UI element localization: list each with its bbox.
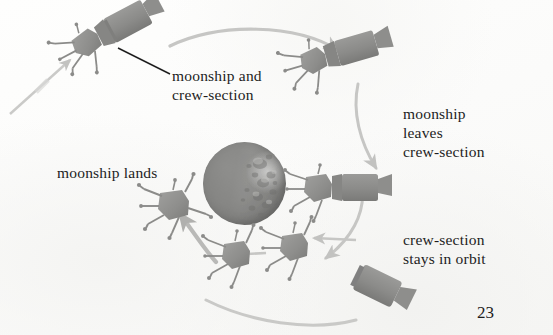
- spacecraft-moonship-descending-lower: [201, 223, 256, 289]
- label-moonship-and-crew-section: moonship and crew-section: [172, 66, 262, 104]
- spacecraft-moonship-landed: [137, 172, 213, 240]
- book-page: moonship and crew-section moonship leave…: [0, 0, 553, 335]
- spacecraft-moonship-separating-from-crew-section: [274, 16, 400, 102]
- spacecraft-crew-section-in-orbit-alone: [349, 262, 417, 314]
- label-moonship-lands: moonship lands: [57, 163, 158, 182]
- page-number: 23: [477, 303, 494, 323]
- label-moonship-leaves-crew-section: moonship leaves crew-section: [403, 104, 485, 161]
- arrow-orbit-right-upper: [356, 84, 376, 168]
- spacecraft-moonship-beside-crew-section: [283, 163, 392, 223]
- arrow-orbit-top: [170, 29, 338, 50]
- spacecraft-moonship-and-crew-section-joined: [45, 0, 176, 89]
- arrow-descend-to-surface: [180, 214, 216, 262]
- spacecraft-moonship-descending: [259, 215, 314, 281]
- arrow-incoming-trajectory: [10, 60, 70, 114]
- arrow-crew-section-to-moonship: [314, 238, 356, 240]
- leader-line-moonship-crew-label: [118, 48, 170, 74]
- label-crew-section-stays-in-orbit: crew-section stays in orbit: [403, 230, 486, 268]
- arrow-orbit-bottom: [206, 300, 356, 325]
